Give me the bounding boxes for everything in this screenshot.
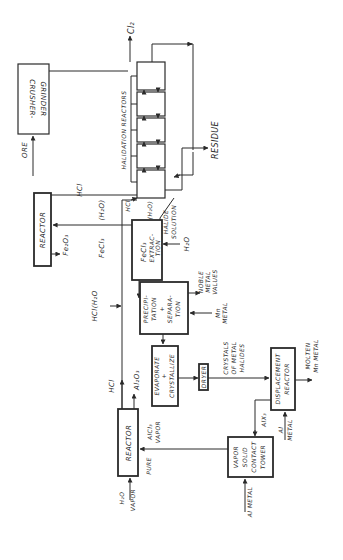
al-metal-b-label: Al METAL [246,487,253,518]
reactor-2-unit: REACTOR [118,409,138,476]
process-flow-diagram: CRUSHER- GRINDER ORE HALIDATION REACTORS… [0,0,343,560]
ore-label: ORE [21,142,29,158]
fecl3-label: FeCl₃ [98,238,106,258]
crusher-grinder-unit: CRUSHER- GRINDER [18,64,49,134]
tower-label-2: SOLID [241,447,248,467]
fecl3-extraction-unit: FeCl₃ EXTRAC- TION [132,220,162,280]
evap-label-1: EVAPORATE [153,357,160,396]
crystals-label-1: CRYSTALS [222,341,229,374]
al-metal-a-label-1: Al [277,427,284,435]
precipitation-separation-unit: PRECIPI- TATION + SEPARA- TION [140,282,188,334]
extraction-label-3: TION [154,240,161,256]
residue-line [165,148,193,190]
hcl-top-label: HCl [76,183,84,196]
halidation-stage-4 [137,144,165,168]
prec-label-5: TION [174,301,181,317]
prec-label-2: TATION [150,297,157,321]
al2o3-label: Al₂O₃ [133,370,141,391]
molten-label-2: Mn METAL [312,339,319,373]
halidation-reactors: HALIDATION REACTORS [120,62,165,198]
tower-label-3: CONTACT [250,440,257,472]
tower-label-1: VAPOR [232,446,239,468]
halidation-label: HALIDATION REACTORS [120,91,127,170]
pure-label-1: PURE [145,457,152,475]
halidation-stage-3 [137,118,165,142]
pure-label-3: VAPOR [154,421,161,443]
molten-label-1: MOLTEN [304,342,311,369]
tower-label-4: TOWER [259,445,266,469]
reactor-1-label: REACTOR [39,212,47,248]
h2o-in-label: H₂O [183,237,191,252]
extraction-label-1: FeCl₃ [140,242,148,262]
pure-label-2: AlCl₃ [146,424,153,441]
crusher-label-2: GRINDER [39,81,47,116]
alx3-label: AlX₃ [260,413,267,428]
h2o-small-label: (H₂O) [146,201,153,219]
crystals-label-2: OF METAL [230,342,237,375]
vapor-solid-contact-tower-unit: VAPOR SOLID CONTACT TOWER [228,437,273,477]
noble-label-3: VALUES [211,269,218,295]
cl2-label: Cl₂ [127,22,136,35]
dryer-unit: DRYER [199,364,208,390]
prec-label-4: SEPARA- [166,295,173,323]
evap-label-2: + [160,373,167,378]
al-metal-a-label-2: METAL [286,419,293,441]
crystals-label-3: HALIDES [238,344,245,373]
disp-label-1: DISPLACEMENT [274,352,281,404]
disp-label-2: REACTOR [283,363,290,395]
h2o-vapor-label-2: VAPOR [129,489,136,511]
halidation-stage-2 [137,92,165,116]
hcl-h2o-label: HCl(H₂O [91,290,99,321]
mn-label-1: Mn [214,308,221,318]
halidation-stage-1 [137,62,165,90]
halide-recycle-line [178,152,193,175]
hcl-bottom-label: HCl [108,379,116,392]
reactor-1-unit: REACTOR [34,193,51,266]
evap-label-3: CRYSTALLIZE [168,354,175,398]
halide-label-2: SOLUTION [170,205,177,239]
hcl-small-label: HCl [124,200,131,212]
evaporate-crystallize-unit: EVAPORATE + CRYSTALLIZE [152,346,178,406]
dryer-label: DRYER [200,366,207,388]
residue-label: RESIDUE [211,120,220,158]
fe2o3-label: Fe₂O₃ [62,234,70,255]
mn-label-2: METAL [221,302,228,324]
prec-label-3: + [158,306,165,311]
prec-label-1: PRECIPI- [142,295,149,323]
halidation-stage-5 [137,170,165,198]
h2o-vapor-label-1: H₂O [118,492,125,505]
noble-label-1: NOBLE [197,271,204,293]
h2o-paren-label: (H₂O) [98,199,106,220]
displacement-reactor-unit: DISPLACEMENT REACTOR [271,348,295,410]
noble-label-2: METAL [204,271,211,293]
crusher-label-1: CRUSHER- [28,79,36,119]
reactor-2-label: REACTOR [125,425,133,461]
